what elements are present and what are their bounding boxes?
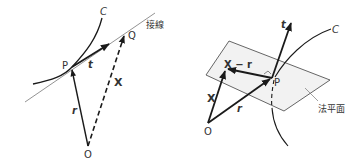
vector-x-label: X [114,76,123,89]
point-p-label: P [274,77,280,88]
curve-c [33,18,102,84]
normal-plane-figure: C 法平面 P O t r X X − r [204,19,345,146]
vector-t-label: t [281,19,287,30]
vector-x-minus-r-label: X − r [224,59,252,70]
point-p-label: P [62,60,68,71]
vector-r-label: r [237,103,243,114]
origin-label: O [204,126,212,137]
vector-r-label: r [72,105,78,116]
tangent-label: 接線 [146,19,164,30]
plane-label: 法平面 [318,103,345,114]
point-q-label: Q [128,30,136,41]
vector-x-label: X [207,92,216,105]
tangent-line [25,13,155,102]
curve-label: C [100,6,107,17]
normal-plane [206,41,330,111]
vector-x [88,36,124,146]
vector-t-label: t [88,59,94,70]
diagram-canvas: C 接線 P Q O t r X C 法平面 P O t r X X − r [0,0,360,166]
tangent-figure: C 接線 P Q O t r X [25,6,164,160]
origin-label: O [84,149,92,160]
curve-c-lower [272,108,288,146]
curve-label: C [332,24,339,35]
